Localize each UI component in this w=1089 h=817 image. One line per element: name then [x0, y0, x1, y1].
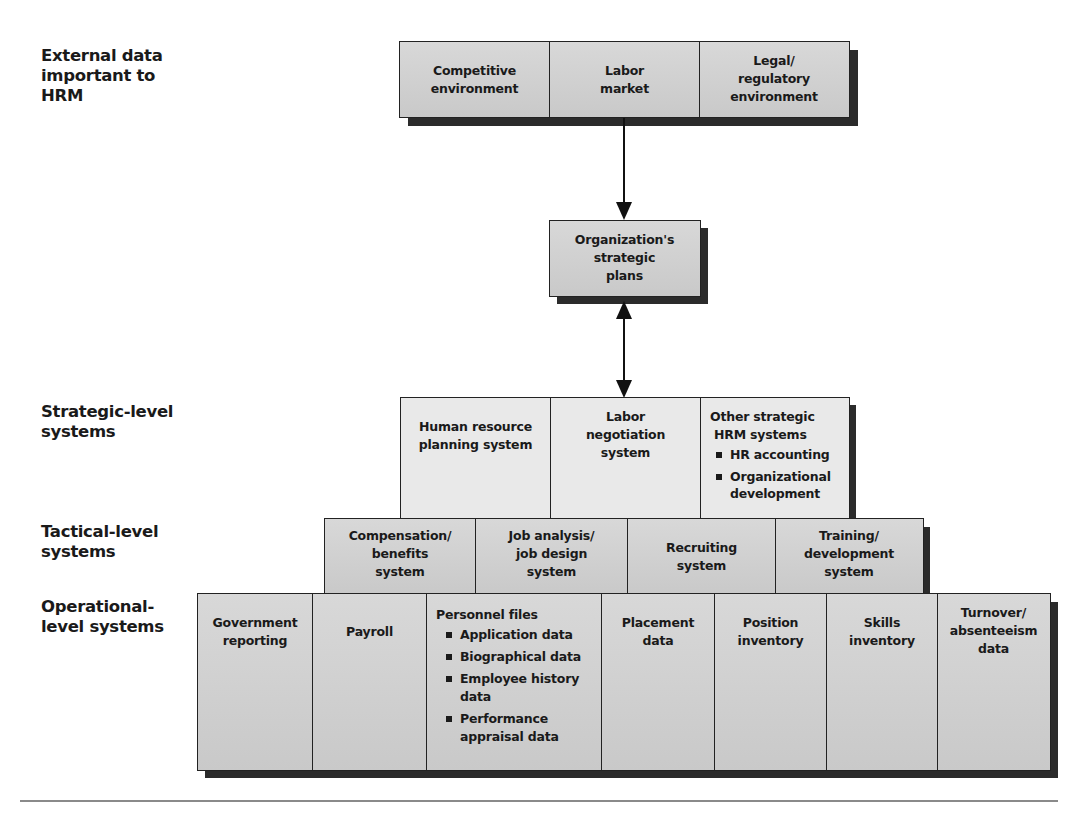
- cell-line: system: [476, 563, 627, 581]
- cell-line: Payroll: [313, 623, 426, 641]
- cell-line: data: [938, 640, 1049, 658]
- operational-skills-inventory: Skills inventory: [827, 594, 938, 770]
- operational-systems-row: Government reporting Payroll Personnel f…: [197, 593, 1051, 771]
- cell-line: market: [550, 80, 699, 98]
- label-line: systems: [41, 542, 158, 562]
- bullet-text: Employee history data: [460, 671, 579, 704]
- square-bullet-icon: [446, 632, 452, 638]
- cell-line: Position: [715, 614, 826, 632]
- label-line: Operational-: [41, 597, 164, 617]
- bullet-text: Performance appraisal data: [460, 711, 559, 744]
- cell-line: environment: [700, 88, 848, 106]
- cell-line: Human resource: [401, 418, 550, 436]
- external-legal-regulatory: Legal/ regulatory environment: [700, 42, 848, 117]
- cell-line: system: [776, 563, 922, 581]
- label-operational-level: Operational- level systems: [41, 597, 164, 637]
- operational-personnel-files: Personnel files Application data Biograp…: [427, 594, 602, 770]
- cell-line: system: [628, 557, 775, 575]
- cell-line: reporting: [198, 632, 312, 650]
- arrow-line-bidirectional: [623, 315, 625, 385]
- cell-line: Personnel files: [436, 606, 601, 624]
- operational-payroll: Payroll: [313, 594, 427, 770]
- external-labor-market: Labor market: [550, 42, 700, 117]
- operational-turnover-absenteeism: Turnover/ absenteeism data: [938, 594, 1049, 770]
- bullet-text: Application data: [460, 627, 573, 642]
- tactical-job-analysis-design: Job analysis/ job design system: [476, 519, 628, 594]
- cell-line: environment: [400, 80, 549, 98]
- bullet-item: Application data: [446, 626, 601, 644]
- square-bullet-icon: [716, 474, 722, 480]
- square-bullet-icon: [446, 716, 452, 722]
- cell-line: inventory: [827, 632, 937, 650]
- bullet-item: Biographical data: [446, 648, 601, 666]
- bottom-divider-rule: [20, 800, 1058, 802]
- operational-position-inventory: Position inventory: [715, 594, 827, 770]
- operational-government-reporting: Government reporting: [198, 594, 313, 770]
- bullet-item: HR accounting: [716, 446, 848, 464]
- arrowhead-down-icon: [616, 202, 632, 220]
- label-external-data: External data important to HRM: [41, 46, 162, 106]
- tactical-training-development: Training/ development system: [776, 519, 922, 594]
- cell-line: data: [602, 632, 714, 650]
- operational-placement-data: Placement data: [602, 594, 715, 770]
- bullet-text: HR accounting: [730, 447, 830, 462]
- cell-line: Labor: [550, 62, 699, 80]
- label-tactical-level: Tactical-level systems: [41, 522, 158, 562]
- bullet-text: Biographical data: [460, 649, 581, 664]
- bullet-text: Organizational development: [730, 469, 831, 501]
- cell-line: Legal/: [700, 52, 848, 70]
- cell-line: negotiation: [551, 426, 700, 444]
- external-data-row: Competitive environment Labor market Leg…: [399, 41, 850, 118]
- cell-line: Labor: [551, 408, 700, 426]
- strategic-labor-negotiation-system: Labor negotiation system: [551, 398, 701, 519]
- bullet-item: Performance appraisal data: [446, 710, 601, 746]
- strategic-plans-box: Organization's strategic plans: [549, 220, 701, 297]
- cell-line: plans: [550, 267, 699, 285]
- cell-line: HRM systems: [710, 426, 848, 444]
- label-strategic-level: Strategic-level systems: [41, 402, 173, 442]
- cell-line: job design: [476, 545, 627, 563]
- cell-line: Government: [198, 614, 312, 632]
- tactical-compensation-benefits: Compensation/ benefits system: [325, 519, 476, 594]
- personnel-files-bullet-list: Application data Biographical data Emplo…: [436, 626, 601, 746]
- cell-line: Other strategic: [710, 408, 848, 426]
- label-line: External data: [41, 46, 162, 66]
- cell-line: Turnover/: [938, 604, 1049, 622]
- label-line: level systems: [41, 617, 164, 637]
- label-line: Tactical-level: [41, 522, 158, 542]
- strategic-other-hrm-systems: Other strategic HRM systems HR accountin…: [701, 398, 848, 519]
- bullet-item: Organizational development: [716, 468, 848, 502]
- cell-line: Job analysis/: [476, 527, 627, 545]
- tactical-systems-row: Compensation/ benefits system Job analys…: [324, 518, 924, 595]
- strategic-hr-planning-system: Human resource planning system: [401, 398, 551, 519]
- label-line: important to: [41, 66, 162, 86]
- external-competitive-environment: Competitive environment: [400, 42, 550, 117]
- cell-line: Competitive: [400, 62, 549, 80]
- strategic-plans-text: Organization's strategic plans: [550, 221, 699, 296]
- cell-line: system: [551, 444, 700, 462]
- arrowhead-down-icon: [616, 380, 632, 398]
- cell-line: Skills: [827, 614, 937, 632]
- arrow-line-down: [623, 118, 625, 206]
- cell-line: absenteeism: [938, 622, 1049, 640]
- square-bullet-icon: [446, 654, 452, 660]
- cell-line: planning system: [401, 436, 550, 454]
- label-line: HRM: [41, 86, 162, 106]
- cell-line: regulatory: [700, 70, 848, 88]
- tactical-recruiting-system: Recruiting system: [628, 519, 776, 594]
- other-hrm-bullet-list: HR accounting Organizational development: [710, 446, 848, 502]
- cell-line: system: [325, 563, 475, 581]
- cell-line: strategic: [550, 249, 699, 267]
- square-bullet-icon: [716, 452, 722, 458]
- cell-line: Organization's: [550, 231, 699, 249]
- bullet-item: Employee history data: [446, 670, 601, 706]
- cell-line: development: [776, 545, 922, 563]
- label-line: systems: [41, 422, 173, 442]
- cell-line: inventory: [715, 632, 826, 650]
- strategic-systems-row: Human resource planning system Labor neg…: [400, 397, 850, 520]
- cell-line: benefits: [325, 545, 475, 563]
- cell-line: Compensation/: [325, 527, 475, 545]
- cell-line: Training/: [776, 527, 922, 545]
- cell-line: Placement: [602, 614, 714, 632]
- label-line: Strategic-level: [41, 402, 173, 422]
